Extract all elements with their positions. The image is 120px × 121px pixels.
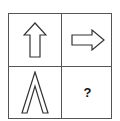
arrow-up-icon: [23, 22, 47, 58]
missing-answer-mark: ?: [84, 85, 92, 100]
cell-top-right: [62, 14, 113, 65]
cell-bottom-right: ?: [62, 67, 113, 118]
arrow-right-icon: [71, 29, 105, 51]
chevron-up-icon: [21, 71, 49, 115]
cell-bottom-left: [9, 67, 60, 118]
cell-top-left: [9, 14, 60, 65]
puzzle-grid: ?: [8, 13, 112, 119]
